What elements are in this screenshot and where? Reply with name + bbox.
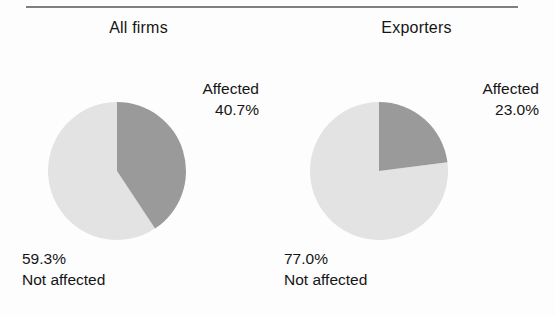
callout-label-affected: Affected	[202, 78, 259, 99]
callout-label-not-affected: Not affected	[22, 269, 105, 290]
panel-all-firms: All firms Affected 40.7% 59.3% Not affec…	[0, 0, 277, 317]
panel-exporters: Exporters Affected 23.0% 77.0% Not affec…	[278, 0, 555, 317]
callout-value-not-affected: 77.0%	[284, 248, 367, 269]
callout-label-affected: Affected	[482, 78, 539, 99]
pie-chart-all-firms	[48, 102, 186, 240]
callout-label-not-affected: Not affected	[284, 269, 367, 290]
pie-chart-figure: All firms Affected 40.7% 59.3% Not affec…	[0, 0, 555, 317]
panel-title-exporters: Exporters	[278, 19, 555, 37]
callout-all-firms-not-affected: 59.3% Not affected	[22, 248, 105, 290]
pie-chart-exporters	[310, 102, 448, 240]
panel-title-all-firms: All firms	[0, 19, 277, 37]
pie-svg-exporters	[310, 102, 448, 240]
callout-all-firms-affected: Affected 40.7%	[202, 78, 259, 120]
callout-value-affected: 40.7%	[202, 99, 259, 120]
callout-exporters-not-affected: 77.0% Not affected	[284, 248, 367, 290]
callout-value-affected: 23.0%	[482, 99, 539, 120]
pie-svg-all-firms	[48, 102, 186, 240]
pie-slice-exporters-affected	[379, 102, 447, 171]
callout-value-not-affected: 59.3%	[22, 248, 105, 269]
callout-exporters-affected: Affected 23.0%	[482, 78, 539, 120]
